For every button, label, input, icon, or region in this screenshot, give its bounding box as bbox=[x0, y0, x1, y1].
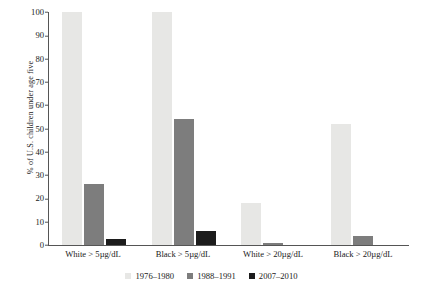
bar-chart: % of U.S. children under age five 0 10 2… bbox=[0, 0, 423, 293]
tick-mark-icon bbox=[45, 59, 48, 60]
legend-item-0: 1976–1980 bbox=[125, 271, 174, 281]
bar-s1-c3 bbox=[353, 236, 373, 245]
x-axis-category-labels: White > 5µg/dL Black > 5µg/dL White > 20… bbox=[48, 249, 408, 259]
tick-mark-icon bbox=[45, 105, 48, 106]
tick-mark-icon bbox=[45, 82, 48, 83]
tick-mark-icon bbox=[45, 35, 48, 36]
legend-label-2: 2007–2010 bbox=[259, 271, 298, 281]
x-category-label-0: White > 5µg/dL bbox=[48, 249, 138, 259]
x-category-label-3: Black > 20µg/dL bbox=[318, 249, 408, 259]
legend-swatch-icon-1 bbox=[187, 273, 193, 279]
bar-s1-c0 bbox=[84, 184, 104, 245]
y-tick-90: 90 bbox=[22, 31, 44, 40]
bar-s0-c2 bbox=[241, 203, 261, 245]
tick-mark-icon bbox=[45, 12, 48, 13]
bar-s2-c0 bbox=[106, 239, 126, 245]
y-tick-10: 10 bbox=[22, 217, 44, 226]
bar-s0-c3 bbox=[331, 124, 351, 245]
y-tick-70: 70 bbox=[22, 78, 44, 87]
tick-mark-icon bbox=[45, 198, 48, 199]
plot-area: 0 10 20 30 40 50 60 70 80 90 100 bbox=[48, 12, 408, 245]
bar-s2-c1 bbox=[196, 231, 216, 245]
bar-s1-c2 bbox=[263, 243, 283, 245]
bar-s0-c1 bbox=[152, 12, 172, 245]
tick-mark-icon bbox=[45, 152, 48, 153]
bar-group-0 bbox=[49, 12, 139, 245]
y-tick-80: 80 bbox=[22, 54, 44, 63]
legend-item-1: 1988–1991 bbox=[187, 271, 236, 281]
tick-mark-icon bbox=[45, 245, 48, 246]
bar-group-1 bbox=[139, 12, 229, 245]
y-tick-30: 30 bbox=[22, 171, 44, 180]
y-tick-20: 20 bbox=[22, 194, 44, 203]
chart-legend: 1976–1980 1988–1991 2007–2010 bbox=[0, 271, 423, 281]
tick-mark-icon bbox=[45, 222, 48, 223]
x-category-label-2: White > 20µg/dL bbox=[228, 249, 318, 259]
legend-item-2: 2007–2010 bbox=[249, 271, 298, 281]
y-tick-40: 40 bbox=[22, 148, 44, 157]
legend-swatch-icon-2 bbox=[249, 273, 255, 279]
bar-s0-c0 bbox=[62, 12, 82, 245]
bar-group-2 bbox=[229, 12, 319, 245]
tick-mark-icon bbox=[45, 129, 48, 130]
tick-mark-icon bbox=[45, 175, 48, 176]
x-category-label-1: Black > 5µg/dL bbox=[138, 249, 228, 259]
bar-s1-c1 bbox=[174, 119, 194, 245]
y-tick-60: 60 bbox=[22, 101, 44, 110]
y-tick-50: 50 bbox=[22, 124, 44, 133]
legend-label-1: 1988–1991 bbox=[197, 271, 236, 281]
legend-swatch-icon-0 bbox=[125, 273, 131, 279]
y-tick-100: 100 bbox=[22, 8, 44, 17]
x-axis-line bbox=[48, 245, 409, 246]
bar-group-3 bbox=[318, 12, 408, 245]
y-tick-0: 0 bbox=[22, 241, 44, 250]
legend-label-0: 1976–1980 bbox=[135, 271, 174, 281]
bar-groups bbox=[49, 12, 408, 245]
